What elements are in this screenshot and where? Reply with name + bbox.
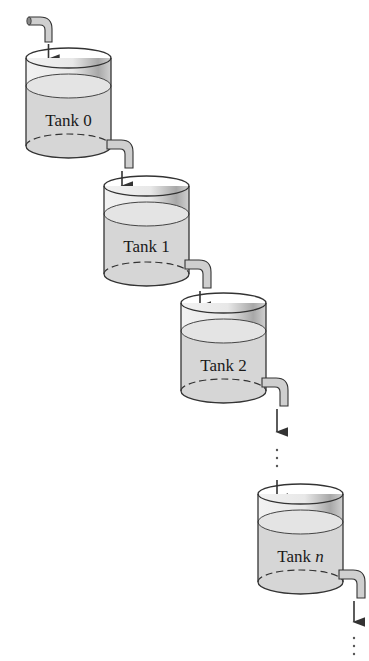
tank-2: Tank 2 [181, 293, 266, 403]
tank-2-label: Tank 2 [200, 356, 247, 375]
tank-0-label: Tank 0 [45, 111, 92, 130]
tank-n-label: Tank n [277, 547, 324, 566]
tank-cascade-diagram: Tank 0 Tank 1 Tank 2 Tank n [0, 0, 369, 661]
ellipsis-dots [276, 449, 278, 467]
tank-n: Tank n [258, 484, 343, 594]
outlet-pipe-0 [107, 140, 133, 168]
trailing-ellipsis-dots [353, 637, 355, 655]
tank-0: Tank 0 [26, 48, 111, 158]
inlet-pipe [27, 17, 52, 42]
tank-1-label: Tank 1 [123, 237, 170, 256]
tank-1: Tank 1 [104, 176, 189, 286]
